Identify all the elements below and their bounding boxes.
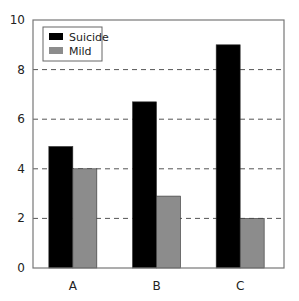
- legend-label-mild: Mild: [69, 45, 92, 58]
- y-tick-label: 10: [10, 13, 25, 27]
- legend-swatch-suicide: [49, 33, 63, 40]
- bar-mild-c: [240, 218, 264, 268]
- x-tick-label: C: [236, 279, 244, 293]
- y-tick-label: 4: [17, 162, 25, 176]
- x-tick-label: A: [69, 279, 78, 293]
- bar-mild-b: [157, 196, 181, 268]
- bar-suicide-a: [49, 146, 73, 268]
- y-tick-label: 8: [17, 63, 25, 77]
- y-tick-label: 0: [17, 261, 25, 275]
- x-tick-label: B: [152, 279, 160, 293]
- y-tick-label: 2: [17, 211, 25, 225]
- bar-suicide-b: [133, 102, 157, 268]
- bar-mild-a: [73, 169, 97, 268]
- legend-swatch-mild: [49, 47, 63, 54]
- legend-label-suicide: Suicide: [69, 31, 109, 44]
- y-tick-label: 6: [17, 112, 25, 126]
- bar-chart: 0246810ABCSuicideMild: [0, 0, 299, 301]
- bar-suicide-c: [216, 45, 240, 268]
